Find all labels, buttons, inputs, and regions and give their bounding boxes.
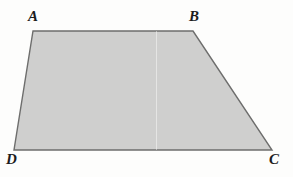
geometry-figure: A B C D [0,0,293,177]
vertex-label-c: C [269,152,279,167]
trapezoid-svg [0,0,293,177]
vertex-label-a: A [28,9,38,24]
vertex-label-d: D [6,152,17,167]
vertex-label-b: B [189,9,199,24]
trapezoid-polygon [14,31,272,150]
